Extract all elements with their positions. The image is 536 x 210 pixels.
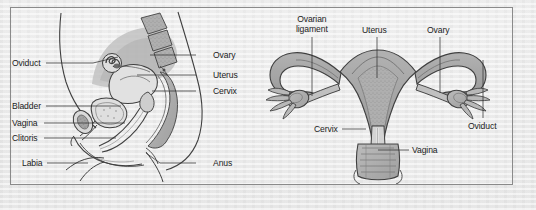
label-labia: Labia — [22, 158, 43, 168]
label-vagina-sagittal: Vagina — [12, 118, 38, 128]
label-vagina-frontal: Vagina — [412, 145, 438, 155]
label-oviduct-frontal: Oviduct — [468, 121, 496, 131]
label-bladder: Bladder — [12, 101, 41, 111]
label-oviduct-sagittal: Oviduct — [12, 58, 40, 68]
label-ovary-sagittal: Ovary — [213, 50, 235, 60]
label-ovarian-ligament-line2: ligament — [296, 24, 328, 34]
label-uterus-frontal: Uterus — [362, 25, 387, 35]
label-cervix-sagittal: Cervix — [213, 86, 237, 96]
label-uterus-sagittal: Uterus — [213, 70, 238, 80]
label-cervix-frontal: Cervix — [314, 124, 338, 134]
label-ovarian-ligament: Ovarian ligament — [296, 14, 328, 34]
label-ovary-frontal: Ovary — [427, 25, 449, 35]
label-anus: Anus — [213, 158, 232, 168]
figure-canvas: Oviduct Bladder Vagina Clitoris Labia Ov… — [0, 0, 536, 210]
label-ovarian-ligament-line1: Ovarian — [296, 14, 328, 24]
label-clitoris: Clitoris — [12, 133, 37, 143]
